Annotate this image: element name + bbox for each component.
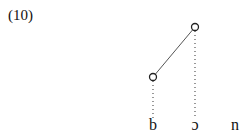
tone-node-high xyxy=(192,24,199,31)
autosegmental-diagram xyxy=(0,0,245,138)
tone-node-low xyxy=(150,74,157,81)
segment-open-o: ɔ xyxy=(191,116,198,134)
association-line xyxy=(153,27,195,77)
segment-n: n xyxy=(231,116,239,134)
segment-b: b xyxy=(149,116,157,134)
